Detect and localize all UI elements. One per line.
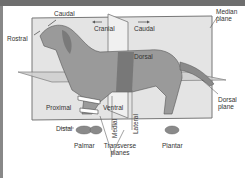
label-dorsal-plane: Dorsal plane (218, 96, 244, 110)
label-cranial: Cranial (94, 25, 115, 32)
label-medial: Medial (111, 119, 118, 138)
label-lateral: Lateral (132, 114, 139, 134)
label-palmar: Palmar (74, 142, 95, 149)
label-ventral: Ventral (103, 104, 123, 111)
label-median-plane: Median plane (216, 8, 244, 22)
torso-band (116, 52, 134, 92)
label-caudal-top: Caudal (54, 10, 75, 17)
label-distal: Distal (56, 125, 72, 132)
label-dorsal: Dorsal (134, 53, 153, 60)
label-caudal-right: Caudal (134, 25, 155, 32)
label-transverse-planes: Transverse planes (102, 142, 138, 156)
label-plantar: Plantar (162, 142, 183, 149)
label-rostral: Rostral (7, 35, 28, 42)
label-proximal: Proximal (46, 104, 71, 111)
